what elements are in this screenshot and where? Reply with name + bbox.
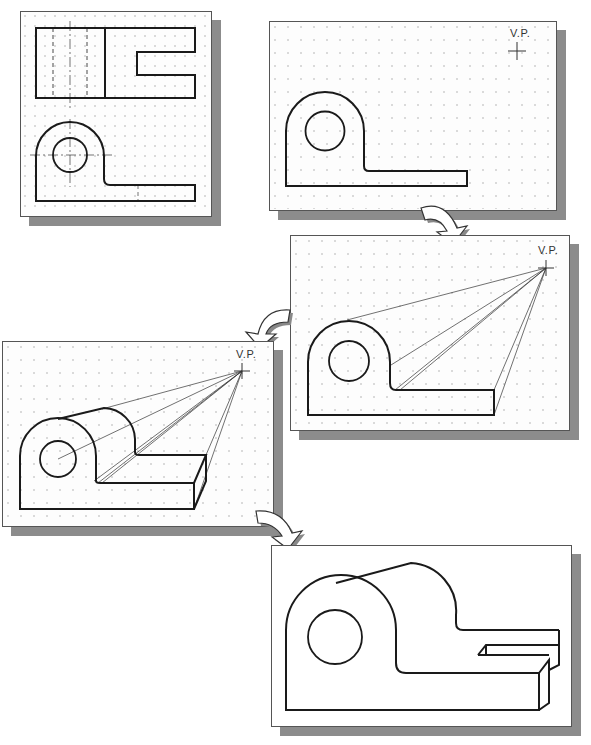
panel-step-2-projection-lines: V.P.	[290, 235, 582, 440]
projection-drawing	[290, 235, 570, 431]
vp-label: V.P.	[510, 27, 530, 39]
front-view-drawing	[269, 21, 557, 211]
final-perspective-drawing	[271, 545, 572, 727]
orthographic-drawing	[20, 11, 212, 217]
panel-orthographic-views	[20, 11, 220, 226]
panel-step-3-depth-construction: V.P.	[2, 341, 287, 536]
panel-step-4-final-perspective	[271, 545, 583, 737]
depth-drawing	[2, 341, 274, 527]
vp-label: V.P.	[236, 348, 256, 360]
panel-step-1-front-view-with-vp: V.P.	[269, 21, 569, 221]
vp-label: V.P.	[538, 244, 558, 256]
